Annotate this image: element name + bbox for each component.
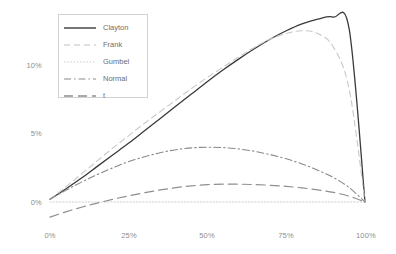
legend-item-gumbel[interactable]: Gumbel <box>59 54 147 70</box>
legend-label-gumbel: Gumbel <box>103 58 129 66</box>
legend-line-clayton-icon <box>63 22 97 34</box>
legend-label-t: t <box>103 92 105 100</box>
legend-item-clayton[interactable]: Clayton <box>59 20 147 36</box>
x-tick-label-25: 25% <box>114 231 144 240</box>
x-tick-label-0: 0% <box>35 231 65 240</box>
legend-item-normal[interactable]: Normal <box>59 71 147 87</box>
legend-line-normal-icon <box>63 73 97 85</box>
y-tick-label-10: 10% <box>12 61 42 70</box>
legend-line-t-icon <box>63 90 97 102</box>
series-line-t <box>50 184 365 217</box>
legend-line-gumbel-icon <box>63 56 97 68</box>
x-tick-label-75: 75% <box>271 231 301 240</box>
y-tick-label-5: 5% <box>12 129 42 138</box>
x-tick-label-50: 50% <box>192 231 222 240</box>
x-tick-label-100: 100% <box>350 231 382 240</box>
legend-item-t[interactable]: t <box>59 88 147 104</box>
chart-legend: Clayton Frank Gumbel Normal t <box>58 14 148 98</box>
legend-item-frank[interactable]: Frank <box>59 37 147 53</box>
legend-label-clayton: Clayton <box>103 24 128 32</box>
legend-label-frank: Frank <box>103 41 122 49</box>
legend-line-frank-icon <box>63 39 97 51</box>
legend-label-normal: Normal <box>103 75 127 83</box>
chart-container: 10% 5% 0% 0% 25% 50% 75% 100% Clayton Fr… <box>0 0 396 254</box>
series-line-normal <box>50 147 365 202</box>
y-tick-label-0: 0% <box>12 198 42 207</box>
